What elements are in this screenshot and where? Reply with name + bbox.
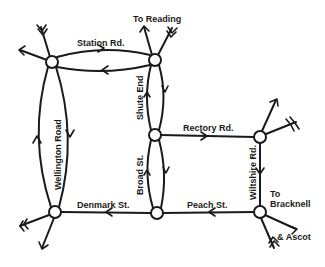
- n5-exit-south: [42, 218, 54, 248]
- shute-end-east: [159, 65, 164, 130]
- label-rectory-rd: Rectory Rd.: [183, 123, 234, 133]
- label-wellington-road: Wellington Road: [53, 119, 63, 190]
- n2-exit-north: [144, 27, 152, 55]
- label-broad-st: Broad St.: [135, 155, 145, 195]
- label-to-bracknell-line2: Bracknell: [270, 199, 311, 209]
- label-shute-end: Shute End: [135, 76, 145, 121]
- wellington-road-west: [39, 67, 51, 207]
- label-denmark-st: Denmark St.: [77, 200, 130, 210]
- junction-node-n3: [149, 129, 161, 141]
- n4-exit-northeast: [262, 100, 276, 131]
- arrow-north-icon: [33, 136, 41, 143]
- label-to-reading: To Reading: [133, 14, 181, 24]
- junction-node-n1: [46, 56, 58, 68]
- junction-node-n6: [151, 207, 163, 219]
- label-peach-st: Peach St.: [187, 200, 228, 210]
- junction-node-n5: [49, 206, 61, 218]
- label-ascot: & Ascot: [277, 232, 311, 242]
- label-station-rd: Station Rd.: [77, 38, 125, 48]
- label-to-bracknell-line1: To: [270, 189, 281, 199]
- station-rd-eastbound: [57, 50, 150, 57]
- label-wiltshire-rd: Wiltshire Rd.: [248, 145, 258, 200]
- n2-entry-north: [158, 28, 172, 55]
- junction-node-n2: [149, 54, 161, 66]
- n4-entry-east: [266, 122, 296, 134]
- junction-node-n7: [254, 206, 266, 218]
- broad-st-east: [159, 140, 164, 208]
- junction-node-n4: [254, 131, 266, 143]
- road-network-diagram: Station Rd. To Reading Shute End Welling…: [0, 0, 325, 267]
